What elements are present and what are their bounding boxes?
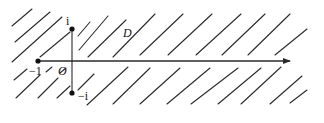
hatch-stroke bbox=[168, 14, 212, 55]
hatch-stroke bbox=[14, 69, 27, 80]
hatch-stroke bbox=[113, 14, 155, 57]
label-minus-one: −1 bbox=[29, 64, 42, 78]
hatch-stroke bbox=[79, 16, 108, 50]
label-origin: O bbox=[58, 64, 67, 78]
hatch-stroke bbox=[140, 14, 183, 55]
domain-hatching bbox=[12, 9, 307, 105]
label-minus-i: −i bbox=[78, 89, 89, 103]
hatch-stroke bbox=[88, 20, 126, 57]
hatch-stroke bbox=[78, 74, 94, 90]
hatch-stroke bbox=[78, 22, 90, 36]
hatch-stroke bbox=[38, 78, 58, 98]
hatch-stroke bbox=[12, 9, 32, 26]
hatch-stroke bbox=[275, 29, 307, 55]
hatch-stroke bbox=[218, 68, 261, 104]
point-minus-i bbox=[69, 90, 74, 95]
hatch-stroke bbox=[248, 14, 290, 55]
hatch-stroke bbox=[222, 14, 265, 55]
hatch-stroke bbox=[57, 86, 70, 98]
hatch-stroke bbox=[16, 75, 40, 98]
label-domain-d: D bbox=[122, 26, 132, 40]
label-i: i bbox=[66, 14, 70, 28]
hatch-stroke bbox=[15, 12, 50, 42]
point-minus-one bbox=[35, 58, 40, 63]
hatch-stroke bbox=[241, 67, 281, 104]
hatch-stroke bbox=[46, 67, 52, 72]
hatch-stroke bbox=[113, 68, 150, 104]
hatch-stroke bbox=[270, 76, 302, 104]
hatch-stroke bbox=[191, 68, 238, 104]
hatch-stroke bbox=[40, 32, 70, 57]
hatch-stroke bbox=[196, 14, 241, 55]
hatch-stroke bbox=[87, 67, 128, 105]
point-i bbox=[69, 26, 74, 31]
hatch-stroke bbox=[290, 90, 307, 103]
complex-domain-diagram: i −1 O −i D bbox=[0, 0, 324, 123]
